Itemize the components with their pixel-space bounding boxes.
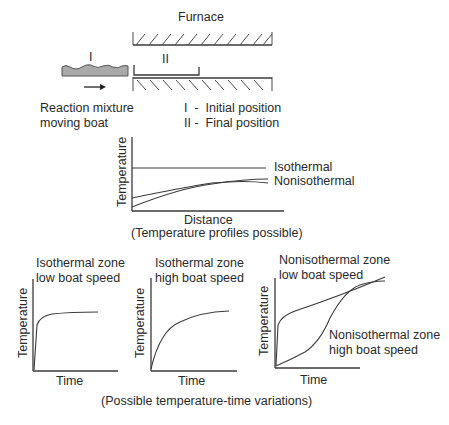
furnace-top-wall [133, 32, 272, 45]
nonisothermal-line-a [132, 179, 268, 207]
panel2-xlabel: Time [178, 374, 205, 388]
time-chart-isothermal-low: Isothermal zone low boat speed Temperatu… [16, 256, 125, 388]
panel3-inner-label-line2: high boat speed [329, 343, 418, 357]
panel1-title-line1: Isothermal zone [36, 256, 125, 270]
boat-final-position [134, 65, 199, 75]
nonisothermal-label: Nonisothermal [274, 174, 355, 188]
panel3-title-line1: Nonisothermal zone [279, 253, 390, 267]
legend-final: II - Final position [184, 116, 279, 130]
nonisothermal-line-b [132, 182, 268, 199]
boat-caption-line2: moving boat [40, 116, 109, 130]
profile-chart: Temperature Isothermal Nonisothermal Dis… [115, 137, 355, 240]
isothermal-label: Isothermal [274, 160, 332, 174]
panel2-title-line1: Isothermal zone [155, 256, 244, 270]
arrow-right-icon [84, 84, 106, 90]
profile-ylabel: Temperature [115, 137, 129, 207]
legend-initial: I - Initial position [184, 101, 281, 115]
furnace-title: Furnace [178, 10, 224, 24]
profile-xlabel: Distance [184, 213, 233, 227]
time-charts-caption: (Possible temperature-time variations) [101, 394, 312, 408]
panel2-title-line2: high boat speed [155, 271, 244, 285]
panel2-ylabel: Temperature [133, 288, 147, 358]
position-I-label: I [89, 50, 92, 64]
boat-initial-position [62, 65, 128, 76]
panel1-xlabel: Time [56, 374, 83, 388]
position-II-label: II [162, 52, 169, 66]
time-chart-isothermal-high: Isothermal zone high boat speed Temperat… [133, 256, 244, 388]
furnace-diagram: Furnace [0, 0, 449, 425]
panel1-title-line2: low boat speed [36, 271, 120, 285]
panel1-ylabel: Temperature [16, 288, 30, 358]
furnace-bottom-wall [133, 77, 272, 91]
panel3-title-line2: low boat speed [279, 268, 363, 282]
time-chart-nonisothermal: Nonisothermal zone low boat speed Temper… [257, 253, 440, 387]
panel3-inner-label-line1: Nonisothermal zone [329, 328, 440, 342]
panel3-ylabel: Temperature [257, 286, 271, 356]
boat-caption-line1: Reaction mixture [40, 101, 134, 115]
panel3-xlabel: Time [300, 373, 327, 387]
profile-caption: (Temperature profiles possible) [131, 226, 303, 240]
